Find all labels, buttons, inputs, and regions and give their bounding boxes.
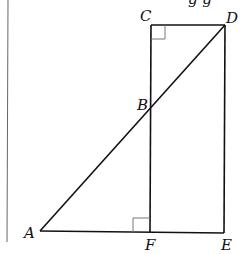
label-f: F	[144, 236, 156, 254]
margin-line	[7, 0, 8, 242]
segment-cf	[150, 25, 151, 232]
geometry-figure: g g C D B A F E	[0, 0, 244, 254]
label-e: E	[220, 236, 232, 254]
label-d: D	[225, 9, 238, 27]
right-angle-f-icon	[133, 218, 150, 232]
label-b: B	[136, 96, 148, 114]
top-text-fragment: g g	[188, 0, 212, 8]
segment-de	[224, 25, 225, 233]
label-c: C	[140, 7, 152, 25]
segment-ad	[40, 25, 225, 231]
segment-ae	[40, 231, 224, 233]
label-a: A	[22, 224, 35, 242]
right-angle-c-icon	[151, 25, 165, 39]
